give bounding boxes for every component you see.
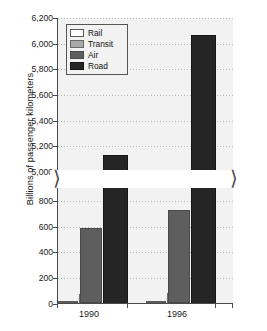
legend-label-rail: Rail xyxy=(88,29,102,37)
legend-label-transit: Transit xyxy=(88,40,113,48)
xtick-1996 xyxy=(215,304,216,308)
ytick-label-6000: 6,000 xyxy=(7,40,53,49)
xtick-right-edge xyxy=(232,304,233,308)
legend-label-road: Road xyxy=(88,62,108,70)
legend-item-rail: Rail xyxy=(70,28,123,38)
axis-break-marker-right: ⟩ xyxy=(230,169,242,190)
ytick-label-400: 400 xyxy=(7,248,53,257)
ytick-label-5600: 5,600 xyxy=(7,91,53,100)
ytick-label-5800: 5,800 xyxy=(7,65,53,74)
bar-chart: Billions of passenger kilometers 6,200 6… xyxy=(0,0,267,331)
legend: Rail Transit Air Road xyxy=(66,24,128,75)
bar-1996-air xyxy=(168,210,190,303)
plot-area-lower xyxy=(58,188,233,303)
ytick-5200 xyxy=(53,146,57,147)
ytick-label-5200: 5,200 xyxy=(7,142,53,151)
ytick-5600 xyxy=(53,95,57,96)
xtick-1990 xyxy=(127,304,128,308)
plot-panel-lower xyxy=(57,188,233,304)
x-axis-label-1990: 1990 xyxy=(59,309,119,319)
gridline-6200 xyxy=(58,18,233,19)
legend-item-transit: Transit xyxy=(70,39,123,49)
legend-item-road: Road xyxy=(70,61,123,71)
axis-break: ⟩ ⟩ xyxy=(50,170,240,189)
ytick-label-800: 800 xyxy=(7,197,53,206)
ytick-200 xyxy=(53,278,57,279)
ytick-400 xyxy=(53,252,57,253)
x-axis-label-1996: 1996 xyxy=(147,309,207,319)
xtick-left-edge xyxy=(57,304,58,308)
ytick-6000 xyxy=(53,44,57,45)
ytick-5400 xyxy=(53,121,57,122)
bar-1996-rail xyxy=(146,301,166,303)
legend-swatch-rail xyxy=(70,29,84,37)
legend-item-air: Air xyxy=(70,50,123,60)
ytick-label-6200: 6,200 xyxy=(7,14,53,23)
ytick-label-0: 0 xyxy=(7,300,53,309)
ytick-600 xyxy=(53,227,57,228)
bar-1996-road-upper xyxy=(191,35,216,172)
legend-label-air: Air xyxy=(88,51,98,59)
bar-1996-road-lower xyxy=(191,188,216,303)
legend-swatch-air xyxy=(70,51,84,59)
ytick-label-5400: 5,400 xyxy=(7,117,53,126)
legend-swatch-road xyxy=(70,62,84,70)
ytick-5800 xyxy=(53,69,57,70)
ytick-label-200: 200 xyxy=(7,274,53,283)
bar-1990-air xyxy=(80,228,102,303)
ytick-800 xyxy=(53,201,57,202)
ytick-label-5000: 5,000 xyxy=(7,168,53,177)
ytick-6200 xyxy=(53,18,57,19)
ytick-label-600: 600 xyxy=(7,223,53,232)
bar-1990-rail xyxy=(58,301,78,303)
bar-1990-road-lower xyxy=(103,188,128,303)
axis-break-marker-left: ⟩ xyxy=(53,169,65,190)
legend-swatch-transit xyxy=(70,40,84,48)
